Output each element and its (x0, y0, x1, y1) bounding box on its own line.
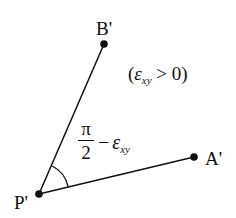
angle-subscript: xy (120, 143, 130, 155)
shear-condition-label: (εxy > 0) (128, 64, 188, 83)
point-p-label: P' (14, 193, 28, 212)
cond-subscript: xy (142, 74, 152, 86)
point-b-dot (100, 40, 108, 48)
angle-label-rest: −εxy (98, 132, 130, 152)
diagram-canvas: B' A' P' (εxy > 0) π 2 −εxy (0, 0, 236, 218)
cond-epsilon: ε (134, 63, 142, 84)
point-a-label: A' (205, 149, 222, 168)
point-b-label: B' (96, 19, 112, 38)
angle-fraction: π 2 (78, 119, 94, 162)
fraction-bar (78, 140, 94, 141)
segment-p-a (39, 157, 194, 194)
point-p-dot (35, 190, 43, 198)
fraction-denominator: 2 (78, 143, 94, 162)
point-a-dot (190, 153, 198, 161)
angle-epsilon: ε (112, 131, 120, 153)
diagram-svg (0, 0, 236, 218)
angle-arc (52, 166, 68, 187)
fraction-numerator: π (78, 119, 94, 138)
minus-sign: − (98, 131, 109, 153)
cond-relation: > 0) (152, 63, 188, 84)
segment-p-b (39, 44, 104, 194)
